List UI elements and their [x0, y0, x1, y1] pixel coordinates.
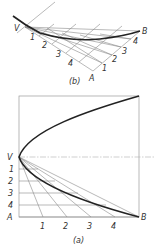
caption-a: (a) [73, 236, 84, 245]
label-a-a: A [6, 213, 12, 222]
label-left-4-a: 4 [8, 201, 13, 210]
figure-b: V B A 1 2 3 4 1 2 3 4 (b) [13, 2, 148, 86]
label-va-1-b: 1 [30, 33, 35, 42]
ray-a-4 [19, 157, 115, 217]
label-ab-4-b: 4 [133, 37, 138, 46]
parabola-curve-a [19, 96, 139, 217]
label-left-2-a: 2 [8, 177, 13, 186]
label-bottom-2-a: 2 [63, 222, 68, 231]
grid-b-va2 [52, 24, 76, 44]
label-ab-2-b: 2 [112, 55, 117, 64]
label-v-a: V [7, 153, 13, 162]
label-b-a: B [141, 213, 147, 222]
ray-a-vb [19, 157, 139, 217]
label-a-b: A [88, 74, 94, 83]
label-ab-1-b: 1 [102, 64, 107, 73]
ray-a-2 [19, 157, 67, 217]
ray-a-1 [19, 157, 43, 217]
ray-a-3 [19, 157, 91, 217]
label-va-3-b: 3 [56, 50, 61, 59]
label-bottom-4-a: 4 [111, 222, 116, 231]
label-left-3-a: 3 [8, 189, 13, 198]
label-bottom-1-a: 1 [40, 222, 45, 231]
label-va-2-b: 2 [42, 41, 47, 50]
label-bottom-3-a: 3 [87, 222, 92, 231]
figure-a: V 1 2 3 4 A B 1 2 3 4 (a) [6, 96, 155, 245]
label-left-1-a: 1 [9, 165, 14, 174]
parabola-construction-diagram: V B A 1 2 3 4 1 2 3 4 (b) V 1 2 3 [0, 0, 160, 250]
caption-b: (b) [69, 77, 80, 86]
label-ab-3-b: 3 [122, 47, 127, 56]
label-va-4-b: 4 [68, 59, 73, 68]
label-b-b: B [142, 27, 148, 36]
label-v-b: V [14, 24, 20, 33]
